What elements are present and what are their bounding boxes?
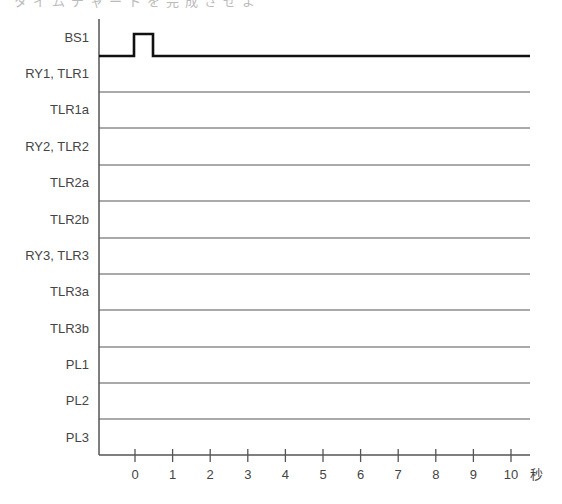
row-label-ry2-tlr2: RY2, TLR2 [25,140,89,154]
row-label-ry3-tlr3: RY3, TLR3 [25,249,89,263]
x-tick-label: 4 [282,468,289,482]
x-axis-unit-label: 秒 [530,468,543,482]
row-lines [99,92,530,419]
row-label-tlr2b: TLR2b [50,213,89,227]
x-tick-label: 10 [504,468,518,482]
row-label-tlr3b: TLR3b [50,322,89,336]
row-label-bs1: BS1 [64,31,89,45]
timing-chart: タイムチャートを完成させよ [0,0,562,504]
row-label-pl2: PL2 [66,394,89,408]
x-tick-label: 1 [169,468,176,482]
row-label-tlr2a: TLR2a [50,176,89,190]
row-label-ry1-tlr1: RY1, TLR1 [25,67,89,81]
row-label-tlr3a: TLR3a [50,285,89,299]
row-label-tlr1a: TLR1a [50,103,89,117]
x-tick-label: 6 [357,468,364,482]
x-tick-label: 3 [244,468,251,482]
row-label-pl1: PL1 [66,358,89,372]
x-tick-label: 2 [207,468,214,482]
row-label-pl3: PL3 [66,431,89,445]
x-tick-label: 8 [432,468,439,482]
x-tick-label: 0 [131,468,138,482]
bs1-signal-waveform [99,34,530,56]
x-tick-label: 7 [395,468,402,482]
x-tick-label: 9 [470,468,477,482]
x-tick-label: 5 [319,468,326,482]
